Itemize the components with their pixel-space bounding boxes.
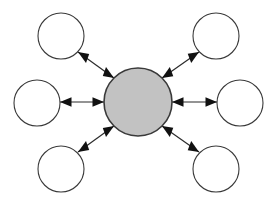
node-circle — [217, 80, 263, 126]
edge-hub-top-right[interactable] — [162, 52, 199, 78]
arrowhead-icon — [103, 126, 114, 137]
diagram-canvas — [0, 0, 279, 204]
node-circle — [38, 146, 84, 192]
edge-hub-bottom-left[interactable] — [78, 126, 114, 152]
arrowhead-icon — [162, 126, 173, 137]
node-right[interactable] — [217, 80, 263, 126]
node-bottom-right[interactable] — [193, 146, 239, 192]
arrowhead-icon — [78, 52, 89, 63]
arrowhead-icon — [60, 97, 72, 106]
node-circle — [38, 13, 84, 59]
arrowhead-icon — [78, 141, 89, 152]
hub-circle — [104, 68, 172, 136]
arrowhead-icon — [188, 141, 199, 152]
node-circle — [193, 13, 239, 59]
edge-hub-right[interactable] — [172, 97, 217, 106]
edge-hub-top-left[interactable] — [78, 52, 114, 78]
node-circle — [14, 80, 60, 126]
arrowhead-icon — [103, 67, 114, 78]
node-bottom-left[interactable] — [38, 146, 84, 192]
arrowhead-icon — [162, 67, 173, 78]
hub-node[interactable] — [104, 68, 172, 136]
arrowhead-icon — [206, 97, 218, 106]
arrowhead-icon — [188, 52, 199, 63]
node-left[interactable] — [14, 80, 60, 126]
arrowhead-icon — [172, 97, 184, 106]
node-top-right[interactable] — [193, 13, 239, 59]
hub-and-spoke-diagram — [0, 0, 279, 204]
edge-hub-left[interactable] — [60, 97, 104, 106]
node-circle — [193, 146, 239, 192]
arrowhead-icon — [93, 97, 105, 106]
node-top-left[interactable] — [38, 13, 84, 59]
edge-hub-bottom-right[interactable] — [162, 126, 199, 152]
